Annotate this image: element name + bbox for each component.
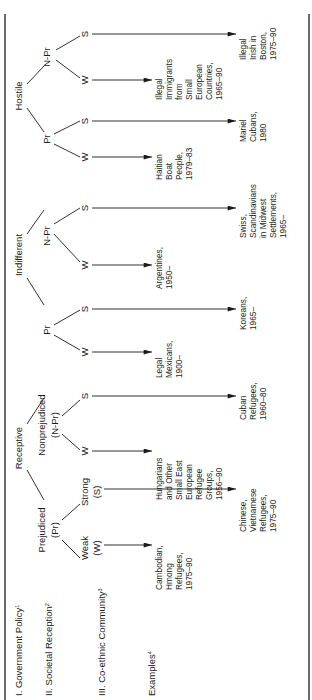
example-swiss-scandinavians: Swiss, Scandinavians in Midwest Settleme… xyxy=(238,182,288,238)
label-prejudiced-abbr: (Pr) xyxy=(49,522,60,538)
example-hungarians: Hungarians and Other Small East European… xyxy=(154,455,224,500)
label-s: S xyxy=(79,205,90,211)
header-coethnic-community: III. Co-ethnic Community3 xyxy=(96,588,107,696)
label-s: S xyxy=(79,306,90,312)
policy-receptive: Receptive Prejudiced (Pr) Weak (W) Cambo… xyxy=(13,380,278,590)
label-s: S xyxy=(79,31,90,37)
label-prejudiced: Prejudiced xyxy=(36,508,47,553)
label-w: W xyxy=(79,347,90,356)
label-pr: Pr xyxy=(41,134,52,144)
policy-indifferent: Indifferent Pr W Legal Mexicans, 1900– S… xyxy=(13,182,288,378)
example-legal-mexicans: Legal Mexicans, 1900– xyxy=(154,338,184,378)
example-cambodian-hmong: Cambodian, Hmong Refugees, 1975–90 xyxy=(154,543,194,590)
label-npr: N-Pr xyxy=(41,47,52,67)
label-weak: Weak xyxy=(79,536,90,560)
policy-hostile: Hostile Pr W Haitian Boat People, 1979–8… xyxy=(13,27,278,180)
example-haitian-boat-people: Haitian Boat People, 1979–83 xyxy=(154,147,194,180)
label-receptive: Receptive xyxy=(13,427,24,469)
level-headers: I. Government Policy1 II. Societal Recep… xyxy=(13,588,157,696)
label-nonprejudiced: Nonprejudiced xyxy=(36,394,47,455)
label-hostile: Hostile xyxy=(13,81,24,110)
label-weak-abbr: (W) xyxy=(91,540,102,555)
label-w: W xyxy=(79,152,90,161)
label-w: W xyxy=(79,75,90,84)
example-koreans: Koreans, 1965– xyxy=(238,294,258,330)
header-examples: Examples4 xyxy=(146,651,157,696)
label-strong: Strong xyxy=(79,478,90,506)
label-w: W xyxy=(79,446,90,455)
typology-diagram: I. Government Policy1 II. Societal Recep… xyxy=(0,0,312,700)
example-argentines: Argentines, 1950– xyxy=(154,245,174,289)
example-illegal-irish: Illegal Irish in Boston, 1975–90 xyxy=(238,27,278,60)
example-illegal-european: Illegal Immigrants from Small European C… xyxy=(154,57,224,100)
label-nonprejudiced-abbr: (N-Pr) xyxy=(49,412,60,438)
label-indifferent: Indifferent xyxy=(13,234,24,276)
header-government-policy: I. Government Policy1 xyxy=(13,605,24,696)
label-npr: N-Pr xyxy=(41,226,52,246)
example-mariel-cubans: Mariel Cubans, 1980 xyxy=(238,109,268,142)
header-societal-reception: II. Societal Reception2 xyxy=(43,603,54,696)
label-strong-abbr: (S) xyxy=(91,486,102,499)
label-w: W xyxy=(79,260,90,269)
example-chinese-vietnamese: Chinese, Vietnamese Refugees, 1975–90 xyxy=(238,486,278,532)
example-cuban-refugees: Cuban Refugees, 1960–80 xyxy=(238,380,268,420)
label-pr: Pr xyxy=(41,325,52,335)
label-s: S xyxy=(79,393,90,399)
label-s: S xyxy=(79,118,90,124)
